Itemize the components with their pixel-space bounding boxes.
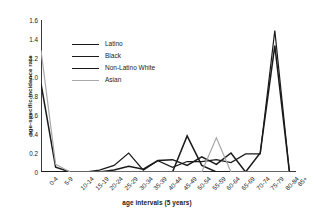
legend-item-label: Latino [105, 41, 123, 48]
x-axis-label: age intervals (5 years) [0, 199, 314, 206]
x-tick-label: 0-4 [48, 175, 59, 186]
x-tick-label: 20-24 [108, 175, 124, 191]
x-tick-label: 60-64 [225, 175, 241, 191]
x-tick-label: 30-34 [137, 175, 153, 191]
legend-item-label: Asian [105, 77, 121, 84]
legend-swatch-icon [72, 56, 99, 57]
x-axis-tick-labels: 0-45-910-1415-1920-2425-2930-3435-3940-4… [41, 172, 296, 202]
x-tick-label: 15-19 [94, 175, 110, 191]
y-tick-label: 0.2 [16, 150, 38, 157]
chart-figure: age-specific incidence rate 00.20.40.60.… [0, 0, 314, 215]
legend-item-latino[interactable]: Latino [72, 38, 190, 50]
x-tick-label: 55-59 [210, 175, 226, 191]
y-tick-label: 1.6 [16, 17, 38, 24]
x-tick-label: 50-54 [196, 175, 212, 191]
legend-item-label: Black [105, 53, 121, 60]
x-tick-label: 40-44 [167, 175, 183, 191]
x-tick-label: 45-49 [181, 175, 197, 191]
x-tick-label: 65-69 [240, 175, 256, 191]
y-tick-label: 1.0 [16, 74, 38, 81]
y-tick-label: 1.4 [16, 36, 38, 43]
x-tick-label: 35-39 [152, 175, 168, 191]
y-tick-label: 0.8 [16, 93, 38, 100]
y-tick-label: 0.6 [16, 112, 38, 119]
legend-swatch-icon [72, 44, 99, 45]
legend-swatch-icon [72, 80, 99, 81]
x-tick-label: 75-79 [269, 175, 285, 191]
y-tick-label: 0 [16, 169, 38, 176]
x-tick-label: 5-9 [62, 175, 73, 186]
y-tick-label: 0.4 [16, 131, 38, 138]
legend-item-non-latino-white[interactable]: Non-Latino White [72, 62, 190, 74]
legend-item-black[interactable]: Black [72, 50, 190, 62]
x-tick-label: 10-14 [79, 175, 95, 191]
y-tick-label: 1.2 [16, 55, 38, 62]
x-tick-label: 85+ [297, 175, 310, 188]
legend-item-label: Non-Latino White [105, 65, 155, 72]
chart-legend: LatinoBlackNon-Latino WhiteAsian [72, 38, 190, 86]
x-tick-label: 25-29 [123, 175, 139, 191]
x-tick-label: 70-74 [254, 175, 270, 191]
legend-item-asian[interactable]: Asian [72, 74, 190, 86]
y-axis-tick-labels: 00.20.40.60.81.01.21.41.6 [12, 20, 38, 172]
legend-swatch-icon [72, 68, 99, 69]
